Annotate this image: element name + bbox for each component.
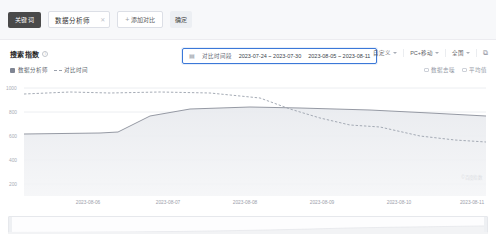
- dropdown-region-label: 全国: [452, 49, 464, 57]
- chart-controls: 自定义 PC+移动 全国 ⧉: [367, 49, 488, 57]
- add-compare-button[interactable]: + 添加对比: [117, 11, 163, 28]
- x-tick-label: 2023-08-09: [310, 200, 335, 205]
- top-toolbar: 关键词 数据分析师 ✕ + 添加对比 确定: [0, 0, 496, 40]
- compare-period-label: 对比时间段: [202, 52, 232, 60]
- x-tick-label: 2023-08-06: [76, 200, 101, 205]
- chart-options: 数据去噪 平均值: [424, 66, 487, 74]
- chart-y-axis: 1000 800 600 400 200: [6, 86, 17, 187]
- chart-x-axis: 2023-08-06 2023-08-07 2023-08-08 2023-08…: [0, 200, 496, 210]
- range-handle-right[interactable]: [484, 217, 487, 233]
- page-title: 搜索指数: [10, 49, 39, 59]
- keyword-input-value: 数据分析师: [55, 15, 90, 25]
- option-denoise-label: 数据去噪: [431, 66, 455, 74]
- range-sparkline: [9, 217, 487, 233]
- legend-label-compare: 对比时间: [64, 66, 88, 74]
- option-average[interactable]: 平均值: [462, 66, 487, 74]
- chevron-down-icon: [435, 52, 439, 54]
- compare-range-secondary[interactable]: 2023-08-05 ~ 2023-08-11: [308, 53, 370, 59]
- option-denoise[interactable]: 数据去噪: [424, 66, 455, 74]
- keyword-tag-button[interactable]: 关键词: [8, 12, 41, 28]
- panel-header: 搜索指数 i: [10, 49, 48, 59]
- close-icon[interactable]: ✕: [100, 17, 105, 23]
- legend-swatch-dashed-icon: [54, 70, 62, 71]
- trend-chart-svg: 1000 800 600 400 200: [0, 78, 496, 200]
- x-tick-label: 2023-08-11: [460, 200, 484, 205]
- dropdown-custom-range-label: 自定义: [373, 49, 391, 57]
- x-tick-label: 2023-08-10: [387, 200, 412, 205]
- dropdown-device-label: PC+移动: [410, 49, 433, 57]
- series-primary-area: [24, 107, 486, 196]
- chevron-down-icon: [466, 52, 470, 54]
- chart-watermark: ©百度指数: [461, 174, 482, 180]
- share-icon[interactable]: ⧉: [476, 49, 488, 57]
- chart-legend: 数据分析师 对比时间: [10, 66, 88, 74]
- range-handle-left[interactable]: [9, 217, 12, 233]
- plus-icon: +: [125, 16, 129, 23]
- svg-text:400: 400: [9, 158, 17, 163]
- trend-chart[interactable]: 1000 800 600 400 200 ©百度指数: [0, 78, 496, 198]
- keyword-input[interactable]: 数据分析师 ✕: [48, 11, 110, 28]
- calendar-icon: ▤: [189, 53, 195, 59]
- add-compare-label: 添加对比: [131, 15, 155, 24]
- confirm-button[interactable]: 确定: [170, 11, 192, 28]
- page-root: 关键词 数据分析师 ✕ + 添加对比 确定 搜索指数 i ▤ 对比时间段 202…: [0, 0, 496, 236]
- dropdown-custom-range[interactable]: 自定义: [367, 49, 403, 57]
- x-tick-label: 2023-08-07: [156, 200, 181, 205]
- search-index-panel: 搜索指数 i ▤ 对比时间段 2023-07-24 ~ 2023-07-30 2…: [0, 40, 496, 236]
- compare-range-primary[interactable]: 2023-07-24 ~ 2023-07-30: [239, 53, 302, 59]
- option-average-label: 平均值: [469, 66, 487, 74]
- chevron-down-icon: [393, 52, 397, 54]
- legend-swatch-solid-icon: [10, 68, 15, 73]
- dropdown-device[interactable]: PC+移动: [403, 49, 445, 57]
- legend-item-compare[interactable]: 对比时间: [54, 66, 89, 74]
- dropdown-region[interactable]: 全国: [445, 49, 476, 57]
- x-tick-label: 2023-08-08: [233, 200, 258, 205]
- svg-text:600: 600: [9, 134, 17, 139]
- svg-text:1000: 1000: [6, 86, 17, 91]
- horizontal-scrollbar[interactable]: [8, 232, 488, 234]
- legend-item-primary[interactable]: 数据分析师: [10, 66, 48, 74]
- checkbox-icon[interactable]: [424, 68, 429, 73]
- legend-label-primary: 数据分析师: [18, 66, 48, 74]
- compare-date-picker[interactable]: ▤ 对比时间段 2023-07-24 ~ 2023-07-30 2023-08-…: [182, 48, 377, 64]
- checkbox-icon[interactable]: [462, 68, 467, 73]
- svg-text:800: 800: [9, 110, 17, 115]
- svg-text:200: 200: [9, 182, 17, 187]
- info-icon[interactable]: i: [42, 51, 48, 57]
